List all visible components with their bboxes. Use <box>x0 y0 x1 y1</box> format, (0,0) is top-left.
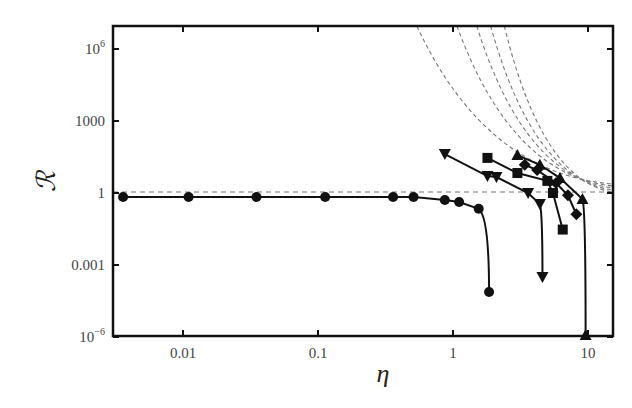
x-axis-label: η <box>377 359 390 388</box>
circle-marker <box>320 192 330 202</box>
x-tick-label: 10 <box>581 345 596 361</box>
series-triangles-down <box>439 149 549 283</box>
circle-marker <box>184 192 194 202</box>
y-tick-label: 1 <box>98 185 106 201</box>
circle-marker <box>474 204 484 214</box>
circle-marker <box>484 287 494 297</box>
y-tick-label: 0.001 <box>71 257 105 273</box>
circle-marker <box>409 192 419 202</box>
y-tick-label: 1000 <box>75 113 105 129</box>
square-marker <box>558 225 568 235</box>
reference-curve <box>417 26 613 184</box>
chart: 0.010.111010−60.00111000106 η ℛ <box>0 0 632 408</box>
triangle-up-marker <box>580 329 592 340</box>
axis-ticks <box>113 26 613 337</box>
data-series <box>118 149 592 340</box>
x-tick-label: 0.1 <box>309 345 328 361</box>
square-marker <box>512 168 522 178</box>
plot-frame <box>113 26 613 336</box>
circle-marker <box>440 195 450 205</box>
circle-marker <box>454 197 464 207</box>
circle-marker <box>118 192 128 202</box>
triangle-up-marker <box>534 159 546 170</box>
tick-labels: 0.010.111010−60.00111000106 <box>71 38 595 361</box>
x-tick-label: 1 <box>449 345 457 361</box>
series-circles <box>118 192 494 297</box>
reference-curve <box>491 26 613 190</box>
triangle-down-marker <box>439 149 451 160</box>
x-tick-label: 0.01 <box>170 345 196 361</box>
diamond-marker <box>570 208 582 220</box>
square-marker <box>482 153 492 163</box>
triangle-down-marker <box>534 199 546 210</box>
reference-curve <box>504 26 613 192</box>
y-tick-label: 10−6 <box>79 326 105 345</box>
circle-marker <box>388 192 398 202</box>
circle-marker <box>251 192 261 202</box>
series-line <box>123 197 489 292</box>
square-marker <box>548 188 558 198</box>
y-axis-label: ℛ <box>32 169 61 192</box>
triangle-down-marker <box>536 272 548 283</box>
y-tick-label: 106 <box>85 38 105 57</box>
